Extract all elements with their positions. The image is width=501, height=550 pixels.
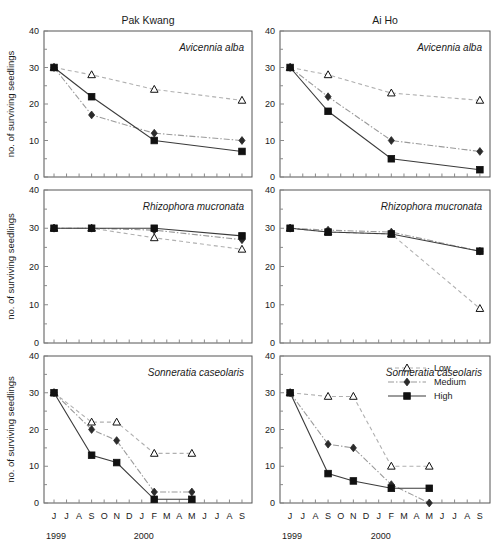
x-tick-label-3: S — [89, 511, 95, 521]
series-line-high — [54, 393, 192, 500]
x-tick-label-7: J — [376, 511, 381, 521]
x-tick-label-6: D — [126, 511, 133, 521]
marker-high-filled-square — [325, 470, 332, 477]
x-tick-label-1: J — [64, 511, 69, 521]
panel-frame — [44, 190, 252, 343]
series-line-low — [290, 68, 480, 101]
x-tick-label-15: S — [239, 511, 245, 521]
series-line-low — [54, 68, 242, 101]
x-tick-label-15: S — [477, 511, 483, 521]
y-tick-label-10: 10 — [265, 300, 275, 310]
legend-label-high: High — [434, 391, 453, 401]
x-tick-label-3: S — [325, 511, 331, 521]
series-line-high — [290, 68, 480, 170]
marker-high-filled-square — [189, 496, 196, 503]
x-tick-label-1: J — [301, 511, 306, 521]
x-year-label-2000: 2000 — [134, 531, 154, 541]
marker-high-filled-square — [88, 93, 95, 100]
series-line-medium — [54, 393, 192, 492]
y-tick-label-0: 0 — [270, 172, 275, 182]
y-tick-label-30: 30 — [265, 63, 275, 73]
figure-container: no. of surviving seedlingsno. of survivi… — [0, 0, 501, 550]
legend-item-medium: Medium — [388, 377, 466, 387]
x-tick-label-14: A — [464, 511, 470, 521]
x-tick-label-13: J — [215, 511, 220, 521]
y-axis-label: no. of surviving seedlings — [5, 213, 16, 320]
panel-frame — [44, 356, 252, 503]
x-tick-label-5: N — [113, 511, 120, 521]
y-tick-label-30: 30 — [29, 223, 39, 233]
y-tick-label-0: 0 — [34, 338, 39, 348]
marker-high-filled-square — [477, 166, 484, 173]
marker-high-filled-square — [113, 459, 120, 466]
x-tick-label-4: O — [101, 511, 108, 521]
y-tick-label-40: 40 — [265, 185, 275, 195]
y-tick-label-20: 20 — [29, 262, 39, 272]
marker-low-open-triangle — [88, 418, 96, 425]
marker-medium-filled-diamond — [388, 137, 394, 145]
panel-2-1: 010203040Rhizophora mucronata — [29, 185, 252, 348]
x-tick-label-5: N — [350, 511, 357, 521]
panel-3-1: 010203040Sonneratia caseolarisJJASONDJFM… — [29, 351, 252, 541]
series-line-high — [290, 393, 429, 489]
y-tick-label-10: 10 — [265, 461, 275, 471]
x-year-label-1999: 1999 — [46, 531, 66, 541]
x-tick-label-4: O — [337, 511, 344, 521]
y-tick-label-0: 0 — [270, 338, 275, 348]
marker-high-filled-square — [239, 148, 246, 155]
x-tick-label-0: J — [52, 511, 57, 521]
marker-high-filled-square — [388, 231, 395, 238]
marker-high-filled-square — [287, 64, 294, 71]
marker-medium-filled-diamond — [151, 129, 157, 137]
panel-frame — [280, 190, 490, 343]
y-tick-label-30: 30 — [29, 63, 39, 73]
y-tick-label-40: 40 — [29, 351, 39, 361]
series-line-low — [290, 393, 429, 467]
marker-high-filled-square — [151, 496, 158, 503]
x-tick-label-8: F — [152, 511, 158, 521]
y-tick-label-30: 30 — [265, 223, 275, 233]
marker-medium-filled-diamond — [239, 137, 245, 145]
series-line-low — [290, 228, 480, 308]
y-tick-label-40: 40 — [265, 351, 275, 361]
panel-1-2: 010203040Avicennia alba — [265, 26, 490, 182]
x-tick-label-6: D — [363, 511, 370, 521]
x-tick-label-7: J — [139, 511, 144, 521]
x-year-label-2000: 2000 — [371, 531, 391, 541]
series-line-low — [54, 228, 242, 249]
species-annotation: Sonneratia caseolaris — [148, 367, 244, 378]
marker-high-filled-square — [239, 233, 246, 240]
x-tick-label-9: M — [400, 511, 408, 521]
marker-high-filled-square — [426, 485, 433, 492]
series-line-low — [54, 393, 192, 454]
x-year-label-1999: 1999 — [282, 531, 302, 541]
series-line-medium — [290, 68, 480, 152]
y-tick-label-0: 0 — [34, 172, 39, 182]
y-tick-label-30: 30 — [265, 388, 275, 398]
marker-high-filled-square — [325, 229, 332, 236]
y-tick-label-20: 20 — [29, 99, 39, 109]
species-annotation: Rhizophora mucronata — [143, 201, 245, 212]
x-tick-label-9: M — [163, 511, 171, 521]
x-tick-label-11: M — [426, 511, 434, 521]
legend-label-medium: Medium — [434, 377, 466, 387]
series-line-high — [54, 228, 242, 236]
legend-item-high: High — [388, 391, 453, 401]
marker-high-filled-square — [350, 478, 357, 485]
panel-2-2: 010203040Rhizophora mucronata — [265, 185, 490, 348]
marker-high-filled-square — [287, 389, 294, 396]
marker-low-open-triangle — [238, 245, 246, 252]
x-tick-label-14: A — [226, 511, 232, 521]
y-tick-label-10: 10 — [29, 461, 39, 471]
x-tick-label-2: A — [76, 511, 82, 521]
marker-low-open-triangle — [238, 96, 246, 103]
marker-low-open-triangle — [388, 462, 396, 469]
species-annotation: Avicennia alba — [178, 42, 244, 53]
legend-marker-medium-filled-diamond — [404, 378, 410, 386]
legend-marker-high-filled-square — [404, 393, 411, 400]
marker-medium-filled-diamond — [89, 111, 95, 119]
marker-high-filled-square — [51, 64, 58, 71]
x-tick-label-10: A — [176, 511, 182, 521]
x-tick-label-11: M — [188, 511, 196, 521]
marker-high-filled-square — [325, 108, 332, 115]
